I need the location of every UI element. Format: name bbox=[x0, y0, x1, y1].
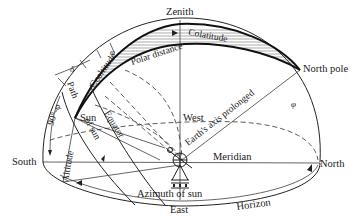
label-equator: Equator bbox=[102, 109, 127, 141]
label-azimuth: Azimuth of sun bbox=[137, 188, 203, 199]
equator-arc bbox=[90, 85, 165, 205]
label-horizon: Horizon bbox=[236, 196, 272, 212]
tick-1 bbox=[58, 78, 66, 86]
label-phi-top: φ bbox=[110, 47, 115, 57]
label-east: East bbox=[170, 204, 188, 215]
label-west: West bbox=[183, 112, 204, 123]
arrow-head bbox=[48, 150, 52, 156]
tick-3 bbox=[97, 50, 101, 58]
meridian-line bbox=[43, 162, 320, 163]
label-colatitude: Colatitude bbox=[188, 27, 229, 44]
dashed-line-2 bbox=[125, 70, 182, 160]
label-delta: δ bbox=[70, 64, 75, 74]
label-meridian: Meridian bbox=[213, 151, 252, 162]
label-north: North bbox=[320, 158, 345, 169]
azimuth-line bbox=[63, 165, 180, 182]
coaltitude-colatitude-arc bbox=[75, 24, 300, 118]
colatitude-arrow bbox=[172, 30, 178, 36]
celestial-sphere-diagram: Zenith Colatitude Polar distance Coaltit… bbox=[0, 0, 357, 224]
label-zenith: Zenith bbox=[166, 6, 194, 17]
label-polar-distance: Polar distance bbox=[130, 41, 184, 67]
label-path: Path bbox=[65, 80, 80, 100]
label-altitude: Altitude bbox=[60, 150, 75, 182]
path-arrow bbox=[101, 155, 105, 162]
label-sun: Sun bbox=[80, 112, 97, 123]
label-ninety-minus-phi: 90°-φ bbox=[45, 102, 62, 127]
outer-sphere-outline bbox=[43, 18, 320, 162]
azimuth-arrow bbox=[76, 180, 82, 186]
label-south: South bbox=[12, 156, 37, 167]
label-north-pole: North pole bbox=[303, 63, 349, 74]
label-phi-right: φ bbox=[291, 99, 296, 109]
horizon-arrow bbox=[307, 164, 312, 172]
